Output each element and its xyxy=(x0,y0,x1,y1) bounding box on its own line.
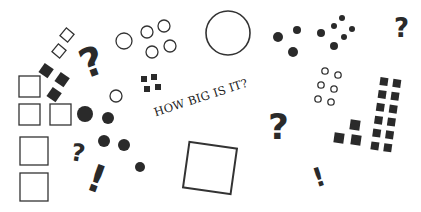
outline-square xyxy=(20,173,48,201)
outline-circle xyxy=(116,33,132,49)
filled-circle xyxy=(273,32,283,42)
outline-circle xyxy=(141,26,153,38)
small-outline-square xyxy=(52,44,66,58)
filled-square xyxy=(141,76,147,82)
tiny-outline-circle xyxy=(322,68,328,74)
filled-square xyxy=(155,84,161,90)
outline-square xyxy=(19,104,40,125)
filled-square xyxy=(333,132,344,143)
filled-circle xyxy=(288,47,298,57)
filled-square xyxy=(144,86,150,92)
small-outline-square xyxy=(60,28,74,42)
large-outline-square xyxy=(183,142,237,194)
shapes-layer xyxy=(0,0,421,212)
filled-square xyxy=(387,117,396,126)
filled-circle xyxy=(317,29,325,37)
filled-square xyxy=(390,92,399,101)
filled-square xyxy=(385,130,394,139)
filled-square xyxy=(151,74,157,80)
tiny-outline-circle xyxy=(331,86,337,92)
tiny-outline-circle xyxy=(315,96,321,102)
filled-circle xyxy=(118,139,130,151)
filled-square xyxy=(374,116,383,125)
filled-square xyxy=(350,134,361,145)
outline-circle xyxy=(164,40,176,52)
filled-circle xyxy=(77,106,93,122)
outline-circle xyxy=(158,20,170,32)
illustration-canvas: ? ? ? ? ! ! HOW BIG IS IT? xyxy=(0,0,421,212)
filled-square xyxy=(372,129,381,138)
filled-square xyxy=(383,143,392,152)
filled-square xyxy=(54,72,69,87)
filled-square xyxy=(38,63,53,78)
filled-square xyxy=(370,141,379,150)
filled-circle xyxy=(341,34,347,40)
filled-circle xyxy=(331,23,337,29)
filled-square xyxy=(349,119,360,130)
tiny-outline-circle xyxy=(318,82,324,88)
tiny-outline-circle xyxy=(328,99,334,105)
question-mark-icon: ? xyxy=(394,15,409,41)
outline-square xyxy=(19,76,40,97)
filled-square xyxy=(376,103,385,112)
outline-square xyxy=(50,104,71,125)
filled-square xyxy=(379,77,388,86)
filled-circle xyxy=(349,26,355,32)
filled-circle xyxy=(98,135,110,147)
filled-square xyxy=(389,105,398,114)
filled-square xyxy=(378,90,387,99)
outline-square xyxy=(20,137,48,165)
large-outline-circle xyxy=(206,11,250,55)
filled-square xyxy=(392,79,401,88)
filled-circle xyxy=(330,42,338,50)
tiny-outline-circle xyxy=(335,72,341,78)
filled-circle xyxy=(102,112,114,124)
filled-circle xyxy=(293,26,301,34)
filled-circle xyxy=(339,15,345,21)
question-mark-icon: ? xyxy=(268,109,289,145)
filled-circle xyxy=(135,162,145,172)
outline-circle xyxy=(110,90,122,102)
outline-circle xyxy=(146,46,158,58)
filled-square xyxy=(46,87,61,102)
